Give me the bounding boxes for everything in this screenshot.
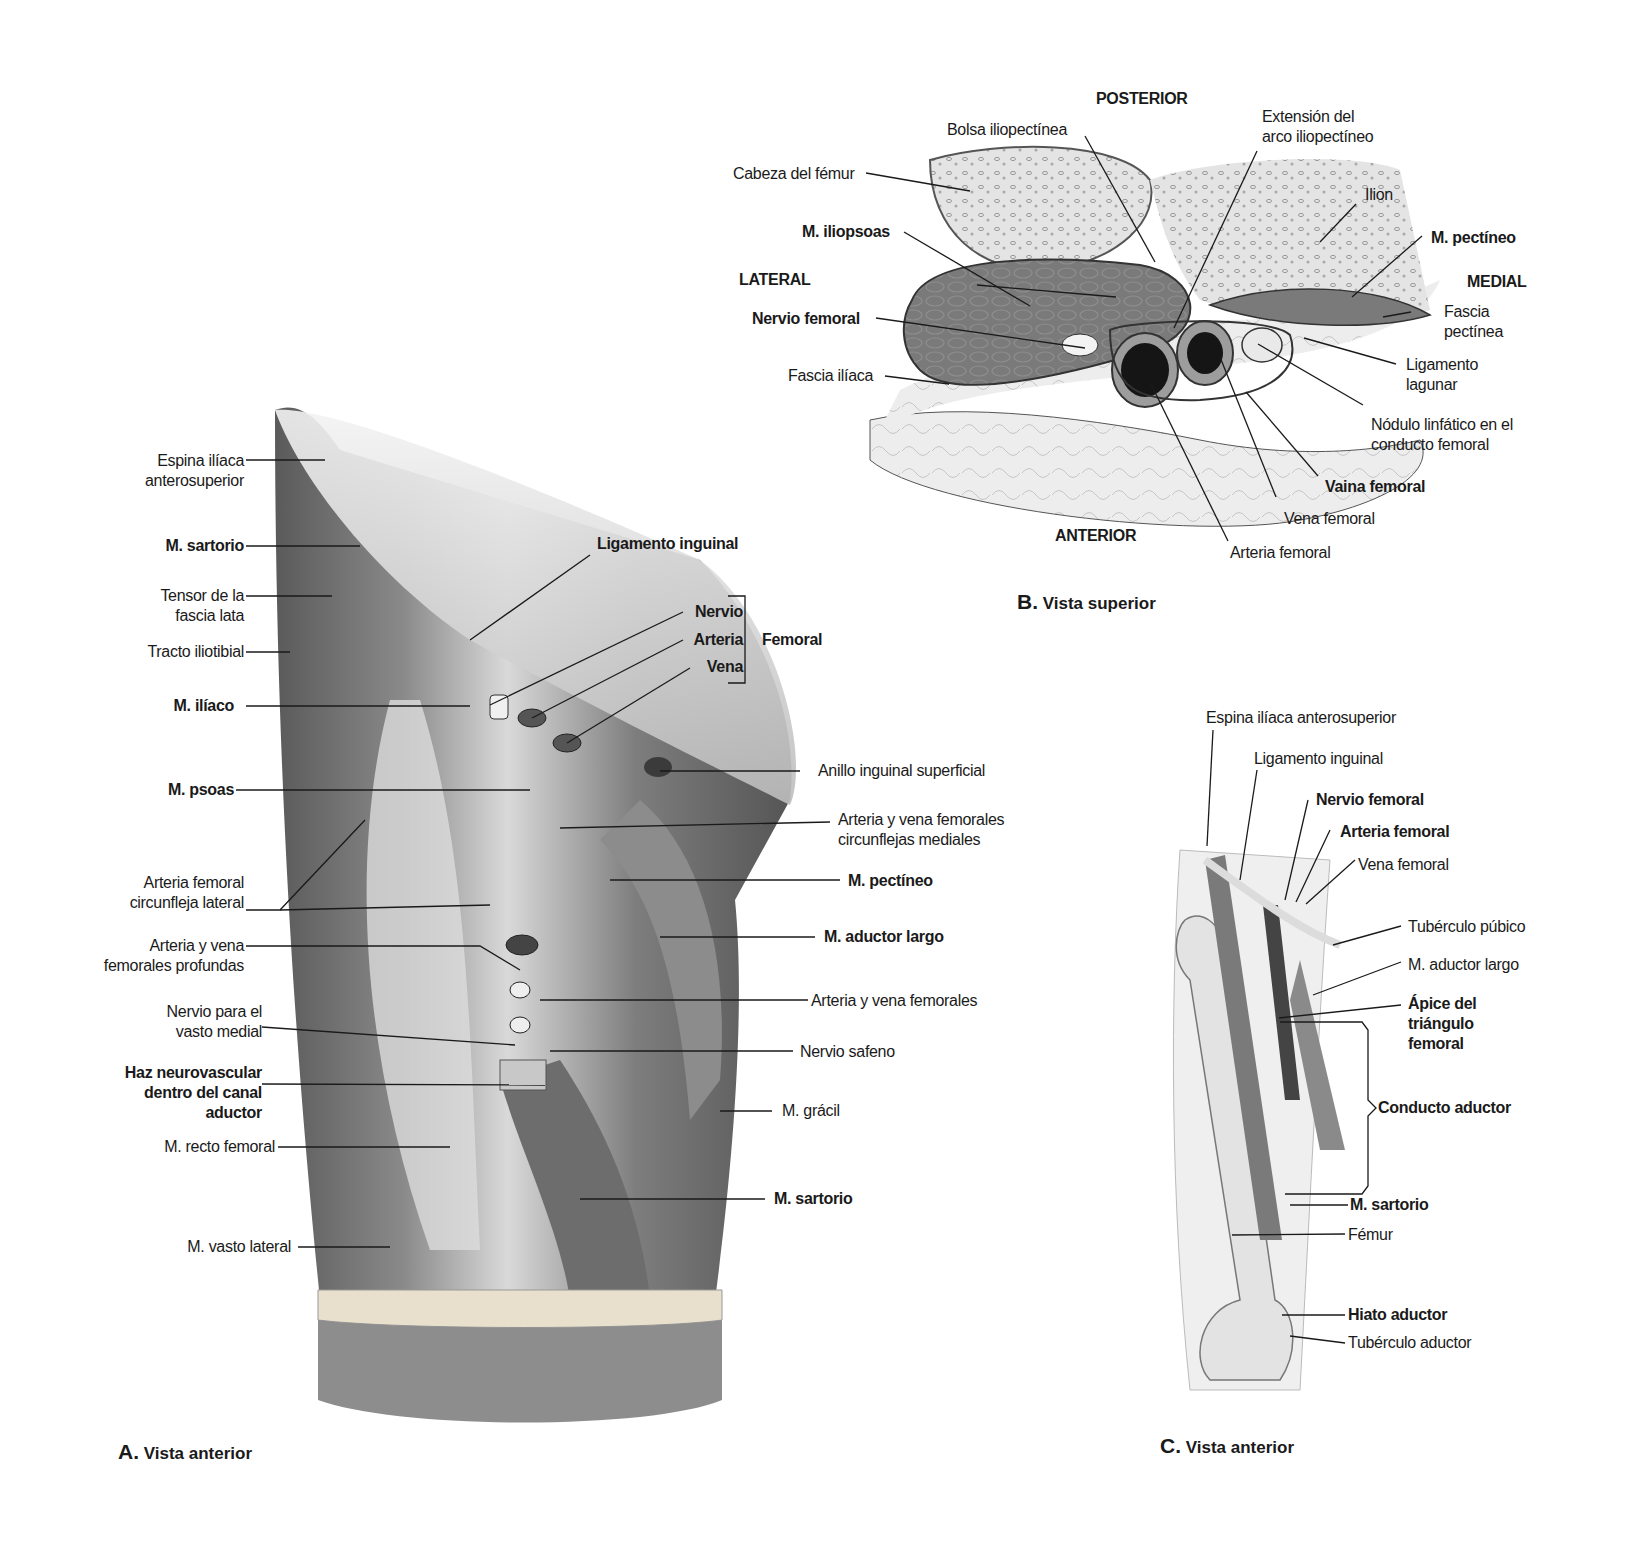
label-femoral-group: Femoral	[762, 630, 822, 650]
caption-b: B. Vista superior	[1017, 590, 1156, 614]
label-espina-iliaca: Espina ilíaca anterosuperior	[145, 451, 244, 491]
label-m-gracil: M. grácil	[782, 1101, 840, 1121]
label-vena-femoral-b: Vena femoral	[1284, 509, 1375, 529]
label-m-vasto-lateral: M. vasto lateral	[187, 1237, 291, 1257]
thigh-anterior-view-drawing	[275, 407, 796, 1422]
label-arteria-vena-femorales: Arteria y vena femorales	[811, 991, 977, 1011]
label-m-recto-femoral: M. recto femoral	[164, 1137, 275, 1157]
label-nervio-femoral-b: Nervio femoral	[752, 309, 860, 329]
label-fascia-pectinea: Fascia pectínea	[1444, 302, 1503, 342]
femoral-sheath-cross-section-drawing	[870, 147, 1440, 526]
caption-b-text: Vista superior	[1038, 594, 1156, 613]
label-arteria: Arteria	[694, 630, 743, 650]
label-m-pectineo: M. pectíneo	[848, 871, 933, 891]
label-nervio: Nervio	[695, 602, 743, 622]
label-fascia-iliaca: Fascia ilíaca	[788, 366, 873, 386]
label-ligamento-inguinal: Ligamento inguinal	[597, 534, 738, 554]
label-m-sartorio-distal: M. sartorio	[774, 1189, 853, 1209]
label-m-iliopsoas: M. iliopsoas	[802, 222, 890, 242]
caption-c: C. Vista anterior	[1160, 1434, 1294, 1458]
caption-a: A. Vista anterior	[118, 1440, 252, 1464]
orientation-lateral: LATERAL	[739, 270, 810, 290]
caption-c-text: Vista anterior	[1181, 1438, 1294, 1457]
label-cabeza-femur: Cabeza del fémur	[733, 164, 855, 184]
orientation-medial: MEDIAL	[1467, 272, 1527, 292]
label-ilion: Ilion	[1365, 185, 1393, 205]
label-m-sartorio: M. sartorio	[166, 536, 245, 556]
label-vaina-femoral: Vaina femoral	[1325, 477, 1425, 497]
label-espina-iliaca-c: Espina ilíaca anterosuperior	[1206, 708, 1396, 728]
label-apice-triangulo: Ápice del triángulo femoral	[1408, 994, 1476, 1054]
label-m-iliaco: M. ilíaco	[174, 696, 234, 716]
label-nodulo-linfatico: Nódulo linfático en el conducto femoral	[1371, 415, 1513, 455]
label-tensor-fascia-lata: Tensor de la fascia lata	[160, 586, 244, 626]
label-nervio-femoral-c: Nervio femoral	[1316, 790, 1424, 810]
label-circunflejas-mediales: Arteria y vena femorales circunflejas me…	[838, 810, 1004, 850]
label-m-psoas: M. psoas	[168, 780, 234, 800]
label-extension-arco: Extensión del arco iliopectíneo	[1262, 107, 1373, 147]
caption-a-letter: A.	[118, 1440, 139, 1463]
caption-c-letter: C.	[1160, 1434, 1181, 1457]
label-anillo-inguinal: Anillo inguinal superficial	[818, 761, 985, 781]
adductor-canal-anterior-view-drawing	[1173, 850, 1345, 1390]
label-tracto-iliotibial: Tracto iliotibial	[147, 642, 244, 662]
label-arteria-femoral-c: Arteria femoral	[1340, 822, 1449, 842]
label-vena-femoral-c: Vena femoral	[1358, 855, 1449, 875]
label-tuberculo-pubico: Tubérculo púbico	[1408, 917, 1525, 937]
caption-a-text: Vista anterior	[139, 1444, 252, 1463]
label-m-aductor-largo: M. aductor largo	[824, 927, 944, 947]
label-m-aductor-largo-c: M. aductor largo	[1408, 955, 1519, 975]
label-hiato-aductor: Hiato aductor	[1348, 1305, 1447, 1325]
label-tuberculo-aductor: Tubérculo aductor	[1348, 1333, 1471, 1353]
label-ligamento-lagunar: Ligamento lagunar	[1406, 355, 1478, 395]
label-haz-neurovascular: Haz neurovascular dentro del canal aduct…	[125, 1063, 262, 1123]
label-vena: Vena	[707, 657, 743, 677]
label-femur-c: Fémur	[1348, 1225, 1393, 1245]
label-ligamento-inguinal-c: Ligamento inguinal	[1254, 749, 1383, 769]
orientation-posterior: POSTERIOR	[1096, 89, 1188, 109]
label-nervio-safeno: Nervio safeno	[800, 1042, 895, 1062]
label-arteria-circunfleja-lateral: Arteria femoral circunfleja lateral	[130, 873, 244, 913]
label-m-pectineo-b: M. pectíneo	[1431, 228, 1516, 248]
label-arteria-femoral-b: Arteria femoral	[1230, 543, 1330, 563]
label-m-sartorio-c: M. sartorio	[1350, 1195, 1429, 1215]
label-conducto-aductor: Conducto aductor	[1378, 1098, 1511, 1118]
label-nervio-vasto-medial: Nervio para el vasto medial	[167, 1002, 262, 1042]
label-bolsa-iliopectinea: Bolsa iliopectínea	[947, 120, 1067, 140]
caption-b-letter: B.	[1017, 590, 1038, 613]
orientation-anterior: ANTERIOR	[1055, 526, 1136, 546]
label-arteria-vena-profundas: Arteria y vena femorales profundas	[104, 936, 244, 976]
